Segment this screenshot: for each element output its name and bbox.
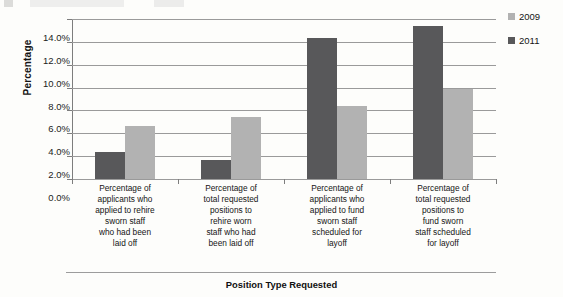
x-axis-title: Position Type Requested [0,279,563,290]
category-label-line: applicants who [284,194,390,205]
bar-2009-1[interactable] [125,126,155,179]
category-label-line: Percentage of [390,183,496,194]
x-axis-category-label: Percentage ofapplicants whoapplied to fu… [284,183,390,250]
bar-2011-3[interactable] [307,38,337,179]
x-axis-rule [66,272,496,273]
category-label-line: been laid off [178,238,284,249]
bar-2011-4[interactable] [413,26,443,179]
y-axis-tick-label: 0.0% [48,193,70,203]
category-label-line: applied to rehire [72,205,178,216]
legend-swatch-icon [508,37,515,44]
category-label-line: applied to fund [284,205,390,216]
category-label-line: sworn staff [72,216,178,227]
y-axis-tick-label: 12.0% [43,56,70,66]
x-axis-category-label: Percentage ofapplicants whoapplied to re… [72,183,178,250]
bar-group [72,19,178,179]
legend-swatch-icon [508,13,515,20]
category-label-line: applicants who [72,194,178,205]
legend-item-2009[interactable]: 2009 [508,12,560,22]
category-label-line: for layoff [390,238,496,249]
bar-2011-1[interactable] [95,152,125,179]
x-axis-category-label: Percentage oftotal requestedpositions to… [390,183,496,250]
bar-group [390,19,496,179]
category-label-line: staff scheduled [390,227,496,238]
y-axis-tick-label: 10.0% [43,79,70,89]
category-label-line: staff who had [178,227,284,238]
legend-label: 2011 [519,36,539,46]
category-label-line: who had been [72,227,178,238]
bar-2009-2[interactable] [231,117,261,179]
category-label-line: Percentage of [72,183,178,194]
x-axis-category-label: Percentage oftotal requestedpositions to… [178,183,284,250]
bar-group [178,19,284,179]
category-label-line: layoff [284,238,390,249]
category-label-line: fund sworn [390,216,496,227]
category-label-line: total requested [178,194,284,205]
plot-area [72,19,496,180]
bar-2009-3[interactable] [337,106,367,179]
category-label-line: rehire worn [178,216,284,227]
x-axis-category-labels: Percentage ofapplicants whoapplied to re… [72,183,496,265]
scan-artifact [4,0,184,7]
bar-2009-4[interactable] [443,89,473,179]
legend-label: 2009 [519,12,540,22]
y-axis-tick-label: 14.0% [43,33,70,43]
bar-group [284,19,390,179]
category-label-line: sworn staff [284,216,390,227]
bar-2011-2[interactable] [201,160,231,179]
category-label-line: Percentage of [284,183,390,194]
chart-legend: 20092011 [508,12,560,59]
category-label-line: positions to [390,205,496,216]
category-label-line: scheduled for [284,227,390,238]
x-axis-tick [496,179,497,184]
category-label-line: laid off [72,238,178,249]
chart-canvas: Percentage 14.0%12.0%10.0%8.0%6.0%4.0%2.… [0,0,563,297]
category-label-line: total requested [390,194,496,205]
category-label-line: positions to [178,205,284,216]
y-axis-tick-labels: 14.0%12.0%10.0%8.0%6.0%4.0%2.0%0.0% [26,19,70,180]
legend-item-2011[interactable]: 2011 [508,36,560,46]
category-label-line: Percentage of [178,183,284,194]
